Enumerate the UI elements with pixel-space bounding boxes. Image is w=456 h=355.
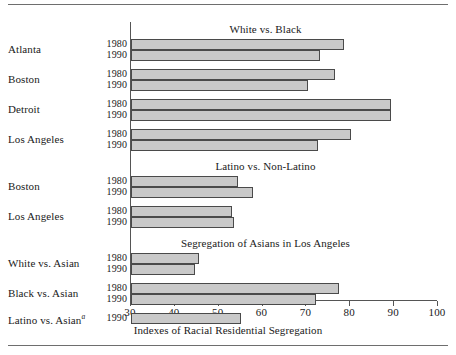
bar bbox=[131, 99, 391, 110]
year-label: 1980 bbox=[101, 175, 127, 186]
category-label: Los Angeles bbox=[8, 210, 110, 222]
bar bbox=[131, 129, 351, 140]
bar bbox=[131, 264, 195, 275]
x-axis-tick-label: 80 bbox=[329, 306, 369, 318]
section-header: White vs. Black bbox=[0, 23, 456, 35]
year-label: 1990 bbox=[101, 109, 127, 120]
bar bbox=[131, 313, 241, 324]
bar bbox=[131, 187, 253, 198]
year-label: 1980 bbox=[101, 128, 127, 139]
category-label: Boston bbox=[8, 180, 110, 192]
year-label: 1980 bbox=[101, 252, 127, 263]
year-label: 1990 bbox=[101, 186, 127, 197]
year-label: 1980 bbox=[101, 98, 127, 109]
year-label: 1980 bbox=[101, 282, 127, 293]
category-label: Detroit bbox=[8, 103, 110, 115]
section-header: Segregation of Asians in Los Angeles bbox=[0, 237, 456, 249]
year-label: 1990 bbox=[101, 79, 127, 90]
bar bbox=[131, 39, 344, 50]
year-label: 1990 bbox=[101, 263, 127, 274]
year-label: 1980 bbox=[101, 205, 127, 216]
bar bbox=[131, 283, 339, 294]
bar bbox=[131, 206, 232, 217]
year-label: 1990 bbox=[101, 49, 127, 60]
year-label: 1980 bbox=[101, 38, 127, 49]
year-label: 1990 bbox=[101, 139, 127, 150]
figure-container: 30405060708090100White vs. BlackAtlanta1… bbox=[0, 0, 456, 355]
category-label: Atlanta bbox=[8, 43, 110, 55]
bar bbox=[131, 140, 318, 151]
bar bbox=[131, 176, 238, 187]
x-axis-title: Indexes of Racial Residential Segregatio… bbox=[0, 324, 456, 336]
bar bbox=[131, 217, 234, 228]
x-axis-tick-label: 60 bbox=[242, 306, 282, 318]
section-header: Latino vs. Non-Latino bbox=[0, 160, 456, 172]
year-label: 1980 bbox=[101, 68, 127, 79]
bar-chart-plot: 30405060708090100White vs. BlackAtlanta1… bbox=[0, 0, 456, 355]
category-label: Black vs. Asian bbox=[8, 287, 110, 299]
bar bbox=[131, 294, 316, 305]
footnote-marker: a bbox=[81, 312, 85, 321]
x-axis-tick-label: 100 bbox=[417, 306, 456, 318]
category-label: Boston bbox=[8, 73, 110, 85]
category-label: White vs. Asian bbox=[8, 257, 110, 269]
bar bbox=[131, 253, 199, 264]
x-axis-tick-label: 70 bbox=[285, 306, 325, 318]
bar bbox=[131, 69, 335, 80]
bar bbox=[131, 50, 320, 61]
category-label: Los Angeles bbox=[8, 133, 110, 145]
year-label: 1990 bbox=[101, 216, 127, 227]
x-axis-tick-label: 90 bbox=[373, 306, 413, 318]
year-label: 1990 bbox=[101, 293, 127, 304]
bar bbox=[131, 110, 391, 121]
year-label: 1990 bbox=[101, 312, 127, 323]
bar bbox=[131, 80, 308, 91]
